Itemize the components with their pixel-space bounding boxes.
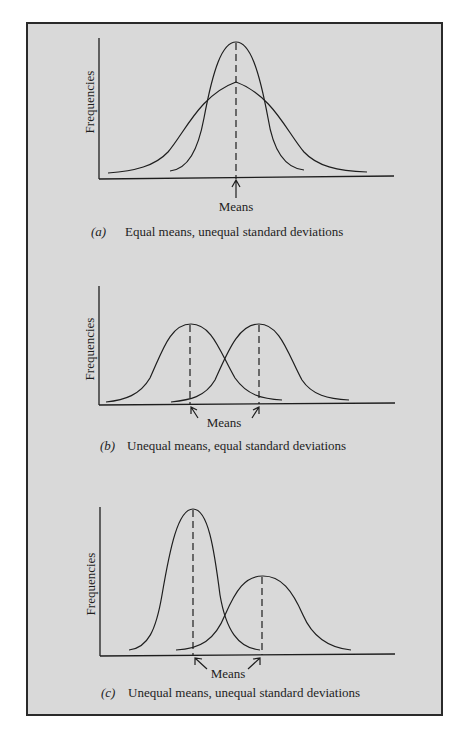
right-short-distribution-curve [176,576,351,650]
mean-arrow-left-icon [191,407,198,418]
y-axis-label: Frequencies [83,553,98,616]
means-label: Means [207,415,242,430]
mean-arrow-right-icon [252,407,259,418]
left-tall-distribution-curve [129,509,260,650]
caption-text: Unequal means, equal standard deviations [127,438,346,453]
left-distribution-curve [106,324,282,402]
caption: (c) [101,685,115,700]
caption: (b) [100,438,115,453]
means-label: Means [211,666,246,681]
panel-a: Frequencies Means (a) Equal means, unequ… [82,38,394,239]
caption: (a) [91,224,106,239]
x-axis [100,654,395,656]
mean-arrow-left-icon [195,658,207,669]
caption-letter: (c) [101,685,115,700]
caption-text: Equal means, unequal standard deviations [125,224,343,239]
y-axis-label: Frequencies [82,318,97,381]
mean-arrow-icon [232,180,240,198]
panel-b: Frequencies Means (b) Unequal means, equ… [82,286,395,453]
caption-text: Unequal means, unequal standard deviatio… [128,685,360,700]
wide-distribution-curve [108,82,367,173]
right-distribution-curve [171,324,349,402]
panel-c: Frequencies Means (c) Unequal means, une… [83,507,395,700]
figure-canvas: Frequencies Means (a) Equal means, unequ… [0,0,462,738]
y-axis-label: Frequencies [82,71,97,134]
x-axis [99,403,395,405]
caption-letter: (b) [100,438,115,453]
means-label: Means [219,199,254,214]
caption-letter: (a) [91,224,106,239]
mean-arrow-right-icon [248,658,260,669]
x-axis [99,176,394,179]
narrow-distribution-curve [170,42,304,171]
